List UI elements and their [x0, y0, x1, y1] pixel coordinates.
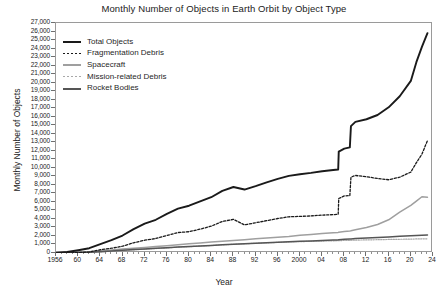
x-tick-label: 84 [206, 257, 214, 264]
x-tick-label: 12 [362, 257, 370, 264]
x-tick-label: 72 [140, 257, 148, 264]
x-tick-label: 16 [384, 257, 392, 264]
y-tick-label: 22,000 [31, 61, 50, 68]
y-tick-label: 14,000 [31, 129, 50, 136]
legend-label: Spacecraft [87, 61, 125, 69]
legend-label: Rocket Bodies [87, 84, 139, 92]
y-tick-label: 15,000 [31, 121, 50, 128]
chart-legend: Total ObjectsFragmentation DebrisSpacecr… [63, 36, 233, 94]
y-tick-label: 2,000 [34, 232, 50, 239]
y-tick-label: 21,000 [31, 70, 50, 77]
legend-item-spacecraft[interactable]: Spacecraft [63, 59, 233, 71]
x-tick-label: 68 [118, 257, 126, 264]
legend-item-fragmentation-debris[interactable]: Fragmentation Debris [63, 48, 233, 60]
legend-swatch-icon [63, 72, 81, 81]
y-tick-label: 12,000 [31, 147, 50, 154]
x-tick-label: 04 [317, 257, 325, 264]
x-tick-label: 24 [428, 257, 436, 264]
y-tick-label: 13,000 [31, 138, 50, 145]
y-tick-label: 4,000 [34, 215, 50, 222]
y-tick-label: 17,000 [31, 104, 50, 111]
y-tick-label: 6,000 [34, 198, 50, 205]
x-tick-label: 96 [273, 257, 281, 264]
y-tick-label: 18,000 [31, 95, 50, 102]
legend-item-rocket-bodies[interactable]: Rocket Bodies [63, 82, 233, 94]
x-tick-label: 2000 [291, 257, 306, 264]
legend-label: Fragmentation Debris [87, 49, 164, 57]
legend-label: Mission-related Debris [87, 73, 167, 81]
y-tick-label: 26,000 [31, 27, 50, 34]
y-axis-ticks: 01,0002,0003,0004,0005,0006,0007,0008,00… [0, 22, 55, 252]
x-tick-label: 64 [96, 257, 104, 264]
y-tick-label: 27,000 [31, 19, 50, 26]
y-tick-label: 16,000 [31, 112, 50, 119]
x-tick-label: 1956 [47, 257, 62, 264]
y-tick-label: 10,000 [31, 164, 50, 171]
x-tick-label: 08 [340, 257, 348, 264]
x-axis-label: Year [0, 277, 448, 287]
x-tick-label: 92 [251, 257, 259, 264]
y-tick-label: 7,000 [34, 189, 50, 196]
x-tick-label: 88 [229, 257, 237, 264]
y-tick-label: 9,000 [34, 172, 50, 179]
legend-swatch-icon [63, 60, 81, 69]
y-tick-label: 19,000 [31, 87, 50, 94]
series-line-fragmentation-debris [56, 141, 427, 253]
legend-label: Total Objects [87, 38, 133, 46]
y-tick-label: 11,000 [31, 155, 50, 162]
x-tick-label: 76 [162, 257, 170, 264]
y-tick-label: 1,000 [34, 240, 50, 247]
y-tick-label: 25,000 [31, 36, 50, 43]
y-tick-label: 5,000 [34, 206, 50, 213]
chart-title: Monthly Number of Objects in Earth Orbit… [0, 3, 448, 14]
x-axis-ticks: 1956606468727680848892962000040812162024 [55, 252, 432, 276]
y-tick-label: 3,000 [34, 223, 50, 230]
x-tick-label: 20 [406, 257, 414, 264]
chart-figure: Monthly Number of Objects in Earth Orbit… [0, 0, 448, 298]
legend-item-mission-related-debris[interactable]: Mission-related Debris [63, 71, 233, 83]
x-tick-label: 80 [184, 257, 192, 264]
series-line-rocket-bodies [56, 235, 427, 253]
y-tick-label: 24,000 [31, 44, 50, 51]
legend-swatch-icon [63, 37, 81, 46]
y-tick-label: 23,000 [31, 53, 50, 60]
y-tick-label: 20,000 [31, 78, 50, 85]
legend-item-total-objects[interactable]: Total Objects [63, 36, 233, 48]
x-tick-label: 60 [73, 257, 81, 264]
y-tick-label: 8,000 [34, 181, 50, 188]
y-tick-label: 0 [46, 249, 50, 256]
legend-swatch-icon [63, 84, 81, 93]
legend-swatch-icon [63, 49, 81, 58]
